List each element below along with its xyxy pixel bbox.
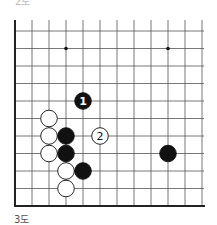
black-stone [75,163,92,180]
black-stone [58,128,75,145]
move-number: 1 [79,95,87,108]
white-stone [58,180,75,197]
black-stone [160,145,177,162]
black-stone [58,145,75,162]
star-point [166,47,170,51]
white-stone [41,110,58,127]
star-point [64,47,68,51]
diagram-caption: 3도 [14,211,29,225]
white-stone [41,128,58,145]
go-board: 12 [0,0,217,210]
white-stone [58,163,75,180]
move-number: 2 [97,130,104,143]
white-stone [41,145,58,162]
